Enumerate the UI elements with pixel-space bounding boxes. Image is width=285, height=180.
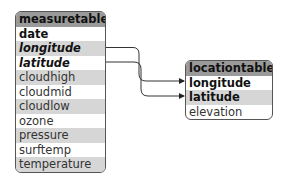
table-name: measure — [19, 12, 75, 27]
field-latitude[interactable]: latitude — [186, 90, 272, 105]
field-cloudlow[interactable]: cloudlow — [16, 99, 105, 114]
field-cloudmid[interactable]: cloudmid — [16, 85, 105, 100]
table-kind: table — [75, 12, 106, 27]
field-date[interactable]: date — [16, 27, 105, 42]
field-temperature[interactable]: temperature — [16, 157, 105, 172]
longitude-connector — [96, 46, 184, 81]
field-surftemp[interactable]: surftemp — [16, 143, 105, 158]
field-longitude[interactable]: longitude — [16, 41, 105, 56]
field-pressure[interactable]: pressure — [16, 128, 105, 143]
measure-table-header: measure table — [16, 12, 105, 27]
field-latitude[interactable]: latitude — [16, 56, 105, 71]
field-ozone[interactable]: ozone — [16, 114, 105, 129]
measure-table[interactable]: measure table date longitude latitude cl… — [15, 11, 106, 173]
field-cloudhigh[interactable]: cloudhigh — [16, 70, 105, 85]
location-table[interactable]: location table longitude latitude elevat… — [185, 60, 273, 120]
location-table-header: location table — [186, 61, 272, 76]
table-kind: table — [241, 61, 273, 76]
field-longitude[interactable]: longitude — [186, 76, 272, 91]
table-name: location — [189, 61, 241, 76]
field-elevation[interactable]: elevation — [186, 105, 272, 120]
